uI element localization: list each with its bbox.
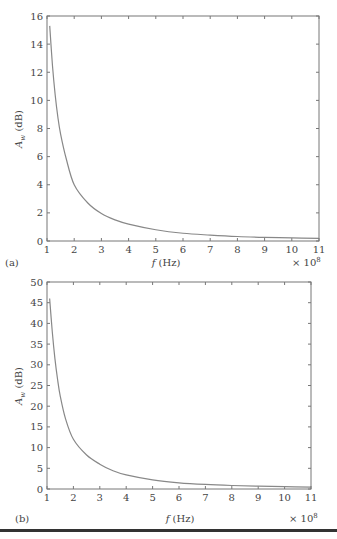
y-axis-label: Aw (dB) — [13, 367, 27, 406]
x-tick-label: 8 — [234, 244, 240, 255]
data-curve — [50, 299, 311, 487]
x-tick-label: 5 — [149, 492, 155, 503]
x-tick-label: 9 — [255, 492, 261, 503]
y-tick-label: 0 — [37, 484, 43, 495]
axis-ticks — [47, 16, 319, 241]
y-tick-label: 14 — [30, 39, 43, 50]
tick-labels: 12345678910110246810121416 — [30, 11, 325, 256]
y-tick-label: 6 — [37, 151, 43, 162]
y-axis-label: Aw (dB) — [13, 110, 27, 149]
y-tick-label: 40 — [30, 318, 43, 329]
y-tick-label: 2 — [37, 207, 43, 218]
y-tick-label: 15 — [30, 421, 43, 432]
figure: 12345678910110246810121416 (a) f (Hz) × … — [0, 0, 337, 539]
x-tick-label: 10 — [285, 244, 298, 255]
panel-label: (a) — [5, 257, 19, 268]
x-tick-label: 6 — [180, 244, 186, 255]
x-tick-label: 7 — [207, 244, 213, 255]
x-tick-label: 11 — [305, 492, 318, 503]
x-tick-label: 9 — [261, 244, 267, 255]
y-tick-label: 45 — [30, 297, 43, 308]
x-axis-label: f (Hz) — [151, 257, 181, 268]
tick-labels: 123456789101105101520253035404550 — [30, 277, 317, 504]
y-tick-label: 8 — [37, 123, 43, 134]
x-tick-label: 3 — [97, 492, 103, 503]
caption-strip — [0, 532, 337, 539]
panel-label: (b) — [15, 513, 29, 524]
x-multiplier: × 108 — [292, 256, 321, 268]
x-tick-label: 6 — [176, 492, 182, 503]
x-tick-label: 5 — [153, 244, 159, 255]
x-axis-label: f (Hz) — [165, 513, 195, 524]
y-tick-label: 16 — [30, 11, 43, 22]
y-tick-label: 4 — [37, 179, 43, 190]
y-tick-label: 0 — [37, 236, 43, 247]
x-multiplier: × 108 — [289, 512, 318, 524]
x-tick-label: 7 — [202, 492, 208, 503]
chart-panel-a: 12345678910110246810121416 (a) f (Hz) × … — [5, 11, 325, 269]
x-tick-label: 1 — [44, 244, 50, 255]
y-tick-label: 5 — [37, 463, 43, 474]
x-tick-label: 4 — [123, 492, 129, 503]
axis-ticks — [47, 282, 311, 489]
plot-frame — [47, 282, 311, 489]
chart-panel-b: 123456789101105101520253035404550 (b) f … — [13, 277, 318, 525]
x-tick-label: 3 — [98, 244, 104, 255]
y-tick-label: 25 — [30, 380, 43, 391]
y-tick-label: 50 — [30, 277, 43, 288]
x-tick-label: 11 — [313, 244, 326, 255]
x-tick-label: 2 — [71, 244, 77, 255]
x-tick-label: 10 — [278, 492, 291, 503]
y-tick-label: 35 — [30, 339, 43, 350]
x-tick-label: 8 — [229, 492, 235, 503]
x-tick-label: 1 — [44, 492, 50, 503]
plot-frame — [47, 16, 319, 241]
data-curve — [50, 26, 319, 238]
y-tick-label: 30 — [30, 359, 43, 370]
y-tick-label: 20 — [30, 401, 43, 412]
y-tick-label: 10 — [30, 95, 43, 106]
y-tick-label: 12 — [30, 67, 43, 78]
y-tick-label: 10 — [30, 442, 43, 453]
x-tick-label: 2 — [70, 492, 76, 503]
x-tick-label: 4 — [125, 244, 131, 255]
